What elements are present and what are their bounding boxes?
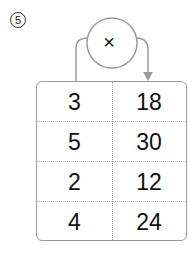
input-output-table: 3 18 5 30 2 12 4 24 bbox=[36, 81, 187, 241]
operator-symbol: × bbox=[97, 30, 121, 54]
output-cell: 18 bbox=[112, 82, 186, 122]
output-cell: 12 bbox=[112, 162, 186, 202]
input-cell: 4 bbox=[37, 202, 112, 242]
table-row: 2 12 bbox=[37, 161, 186, 202]
table-row: 3 18 bbox=[37, 82, 186, 122]
output-cell: 30 bbox=[112, 122, 186, 162]
input-cell: 2 bbox=[37, 162, 112, 202]
output-cell: 24 bbox=[112, 202, 186, 242]
left-connector-line bbox=[76, 38, 88, 81]
table-row: 4 24 bbox=[37, 201, 186, 242]
input-cell: 3 bbox=[37, 82, 112, 122]
arrow-down-icon bbox=[143, 72, 153, 81]
input-cell: 5 bbox=[37, 122, 112, 162]
right-connector-line bbox=[136, 38, 148, 73]
table-row: 5 30 bbox=[37, 121, 186, 162]
